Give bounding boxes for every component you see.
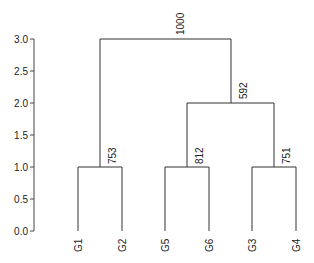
dendrogram-chart: 0.0 0.5 1.0 1.5 2.0 2.5 3.0 753 812 751 … <box>0 0 314 263</box>
branch-g3-g4 <box>252 167 296 231</box>
y-tick-label: 1.5 <box>14 130 28 141</box>
node-labels: 753 812 751 592 1000 <box>107 12 292 164</box>
y-tick-label: 3.0 <box>14 34 28 45</box>
node-label-right: 592 <box>238 82 249 99</box>
y-tick-label: 2.5 <box>14 66 28 77</box>
branch-g5-g6 <box>165 167 209 231</box>
node-label-g3g4: 751 <box>281 147 292 164</box>
y-axis: 0.0 0.5 1.0 1.5 2.0 2.5 3.0 <box>14 34 34 237</box>
leaf-label: G3 <box>247 238 258 252</box>
branch-g1-g2 <box>78 167 122 231</box>
node-label-g1g2: 753 <box>107 147 118 164</box>
node-label-root: 1000 <box>175 12 186 35</box>
y-tick-label: 0.0 <box>14 226 28 237</box>
leaf-label: G5 <box>160 238 171 252</box>
leaf-label: G1 <box>73 238 84 252</box>
leaf-label: G6 <box>204 238 215 252</box>
leaf-label: G4 <box>291 238 302 252</box>
leaf-labels: G1 G2 G5 G6 G3 G4 <box>73 238 302 252</box>
y-tick-label: 0.5 <box>14 194 28 205</box>
y-tick-label: 1.0 <box>14 162 28 173</box>
leaf-label: G2 <box>117 238 128 252</box>
dendrogram-branches <box>78 39 296 231</box>
node-label-g5g6: 812 <box>194 147 205 164</box>
y-tick-label: 2.0 <box>14 98 28 109</box>
